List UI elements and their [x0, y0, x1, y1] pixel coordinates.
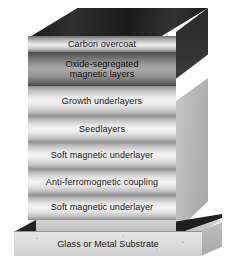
layer-soft-magnetic-underlayer-upper: Soft magnetic underlayer: [28, 142, 176, 169]
layer-label: Oxide-segregated magnetic layers: [65, 59, 138, 80]
layer-stack: Carbon overcoat Oxide-segregated magneti…: [28, 36, 176, 220]
substrate-label: Glass or Metal Substrate: [57, 239, 158, 249]
layer-label: Anti-ferromognetic coupling: [46, 177, 158, 187]
layer-seedlayers: Seedlayers: [28, 116, 176, 142]
layer-label: Soft magnetic underlayer: [51, 202, 153, 212]
layer-label: Growth underlayers: [62, 96, 142, 106]
substrate-front-face: Glass or Metal Substrate: [14, 231, 202, 256]
layer-label: Soft magnetic underlayer: [51, 150, 153, 160]
layer-oxide-segregated-magnetic: Oxide-segregated magnetic layers: [28, 52, 176, 86]
layer-soft-magnetic-underlayer-lower: Soft magnetic underlayer: [28, 195, 176, 220]
layer-label: Seedlayers: [79, 124, 125, 134]
layer-carbon-overcoat: Carbon overcoat: [28, 36, 176, 52]
layer-growth-underlayers: Growth underlayers: [28, 86, 176, 116]
media-layer-stack-diagram: Carbon overcoat Oxide-segregated magneti…: [0, 0, 238, 268]
layer-label: Carbon overcoat: [68, 39, 136, 49]
block-side-face-light: [176, 78, 208, 232]
layer-anti-ferromagnetic-coupling: Anti-ferromognetic coupling: [28, 169, 176, 195]
